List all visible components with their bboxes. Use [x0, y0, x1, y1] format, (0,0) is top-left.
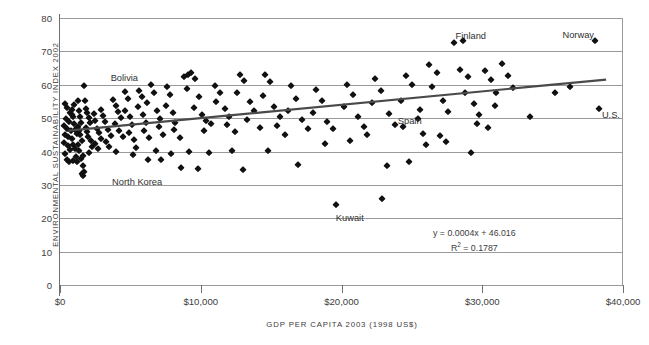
data-point — [160, 131, 168, 139]
data-point — [105, 144, 113, 152]
data-point — [310, 110, 318, 118]
y-tick-label-70: 70 — [26, 46, 52, 57]
data-point — [341, 104, 349, 112]
data-point — [493, 90, 501, 98]
y-tick-label-80: 80 — [26, 13, 52, 24]
regression-r-squared: R2 = 0.1787 — [433, 240, 516, 256]
y-tick-label-10: 10 — [26, 246, 52, 257]
data-point — [526, 113, 534, 121]
x-tick-label-30000: $30,000 — [465, 296, 500, 307]
data-point — [294, 161, 302, 169]
annotation-spain: Spain — [398, 116, 422, 126]
annotation-u-s: U.S. — [602, 110, 620, 120]
data-point — [234, 90, 242, 98]
data-point — [107, 132, 115, 140]
x-axis-ticks: $0$10,000$20,000$30,000$40,000 — [60, 285, 623, 315]
data-point — [217, 89, 225, 97]
data-point — [442, 138, 450, 146]
data-point — [287, 82, 295, 90]
data-point — [205, 149, 213, 157]
data-point — [124, 96, 132, 104]
y-axis-tick-labels: 01020304050607080 — [24, 18, 52, 285]
data-point — [433, 69, 441, 77]
y-tick-label-50: 50 — [26, 113, 52, 124]
data-point — [130, 136, 138, 144]
data-point — [425, 61, 433, 69]
data-point — [142, 119, 150, 127]
gridline-10 — [60, 252, 623, 253]
regression-equation-block: y = 0.0004x + 46.016 R2 = 0.1787 — [433, 227, 516, 256]
data-point — [186, 148, 194, 156]
data-point — [152, 147, 160, 155]
gridline-80 — [60, 18, 623, 19]
annotation-norway: Norway — [562, 30, 594, 40]
data-point — [112, 148, 120, 156]
data-point — [284, 107, 292, 115]
data-point — [276, 114, 284, 122]
data-point — [436, 132, 444, 140]
y-tick-label-40: 40 — [26, 146, 52, 157]
y-tick-label-60: 60 — [26, 79, 52, 90]
data-point — [117, 114, 125, 122]
data-point — [371, 75, 379, 83]
data-point — [552, 90, 560, 98]
data-point — [498, 60, 506, 68]
data-point — [191, 76, 199, 84]
x-tick-label-40000: $40,000 — [606, 296, 641, 307]
data-point — [332, 201, 340, 209]
data-point — [176, 134, 184, 142]
data-point — [246, 98, 254, 106]
data-point — [419, 130, 427, 138]
data-point — [281, 131, 289, 139]
data-point — [270, 104, 278, 112]
y-tick-label-0: 0 — [26, 280, 52, 291]
data-point — [169, 110, 177, 118]
data-point — [445, 108, 453, 116]
data-point — [256, 124, 264, 132]
data-point — [456, 66, 464, 74]
data-point — [379, 195, 387, 203]
gridline-40 — [60, 152, 623, 153]
data-point — [143, 100, 151, 108]
data-point — [369, 99, 377, 107]
data-point — [228, 147, 236, 155]
data-point — [239, 166, 247, 174]
data-point — [212, 98, 220, 106]
y-tick-label-20: 20 — [26, 213, 52, 224]
annotation-north-korea: North Korea — [112, 177, 162, 187]
plot-area: BoliviaNorth KoreaKuwaitSpainFinlandNorw… — [60, 18, 623, 285]
data-point — [221, 106, 229, 114]
x-tick-mark-20000 — [342, 285, 343, 293]
data-point — [504, 72, 512, 80]
annotation-finland: Finland — [456, 31, 487, 41]
data-point — [183, 86, 191, 94]
data-point — [349, 91, 357, 99]
data-point — [119, 133, 127, 141]
data-point — [470, 100, 478, 108]
data-point — [224, 121, 232, 129]
r-squared-exponent: 2 — [457, 241, 461, 248]
data-point — [211, 82, 219, 90]
data-point — [346, 138, 354, 146]
data-point — [153, 107, 161, 115]
data-point — [293, 95, 301, 103]
data-point — [464, 74, 472, 82]
data-point — [386, 110, 394, 118]
data-point — [196, 94, 204, 102]
gridline-60 — [60, 85, 623, 86]
annotation-bolivia: Bolivia — [111, 73, 138, 83]
data-point — [363, 132, 371, 140]
data-point — [259, 92, 267, 100]
x-axis-title: GDP PER CAPITA 2003 (1998 US$) — [60, 320, 624, 329]
data-point — [231, 128, 239, 136]
data-point — [158, 156, 166, 164]
data-point — [150, 89, 158, 97]
data-point — [312, 86, 320, 94]
x-tick-mark-0 — [60, 285, 61, 293]
data-point — [324, 118, 332, 126]
data-point — [170, 126, 178, 134]
x-tick-mark-10000 — [201, 285, 202, 293]
data-point — [408, 81, 416, 89]
data-point — [200, 128, 208, 136]
data-point — [80, 83, 88, 91]
